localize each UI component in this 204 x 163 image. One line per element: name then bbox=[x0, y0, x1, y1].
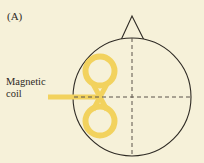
head-diagram bbox=[0, 0, 204, 163]
nose-outline bbox=[121, 16, 144, 40]
